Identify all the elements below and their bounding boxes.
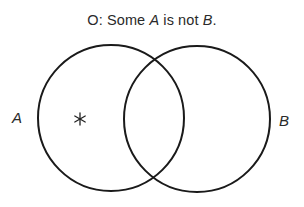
circle-a bbox=[38, 45, 184, 191]
label-b: B bbox=[279, 112, 289, 129]
asterisk-marker-icon bbox=[75, 113, 85, 125]
venn-diagram bbox=[0, 0, 304, 207]
circle-b bbox=[124, 46, 270, 192]
label-a: A bbox=[12, 109, 22, 126]
